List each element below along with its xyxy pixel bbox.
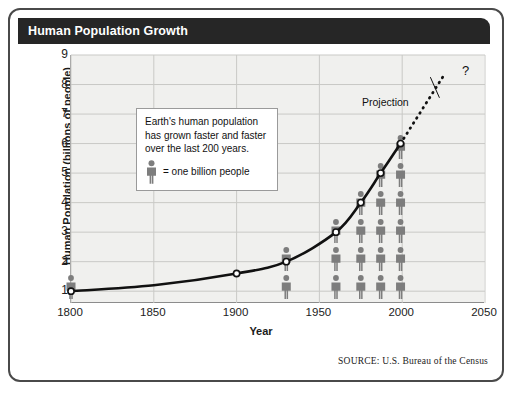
- data-point-marker: [68, 288, 74, 294]
- pictogram-person: [396, 247, 405, 271]
- y-tick-label: 7: [46, 106, 68, 120]
- pictogram-person: [376, 247, 385, 271]
- y-axis-ticks: 123456789: [44, 52, 68, 302]
- source-note: SOURCE: U.S. Bureau of the Census: [338, 356, 488, 366]
- pictogram-person: [376, 275, 385, 299]
- y-tick-label: 8: [46, 77, 68, 91]
- callout-legend-text: = one billion people: [163, 165, 249, 179]
- callout-line-2: has grown faster and faster: [145, 129, 269, 143]
- y-tick-label: 1: [46, 283, 68, 297]
- data-point-marker: [358, 200, 364, 206]
- x-tick-label: 1950: [306, 306, 332, 318]
- data-point-marker: [283, 259, 289, 265]
- chart-frame: Human Population Growth Human Population…: [8, 8, 504, 382]
- person-icon: [145, 160, 158, 184]
- y-tick-label: 3: [46, 224, 68, 238]
- pictogram-person: [331, 247, 340, 271]
- projection-leader-line: [430, 77, 439, 98]
- callout-line-1: Earth's human population: [145, 115, 269, 129]
- pictogram-person: [356, 275, 365, 299]
- pictogram-person: [396, 163, 405, 187]
- pictogram-person: [356, 219, 365, 243]
- callout-line-3: over the last 200 years.: [145, 142, 269, 156]
- pictogram-person: [376, 191, 385, 215]
- pictogram-person: [331, 275, 340, 299]
- data-point-marker: [234, 270, 240, 276]
- y-tick-label: 9: [46, 47, 68, 61]
- y-tick-label: 5: [46, 165, 68, 179]
- chart-canvas: [71, 55, 485, 303]
- pictogram-person: [396, 219, 405, 243]
- callout-box: Earth's human population has grown faste…: [136, 108, 278, 191]
- page-title: Human Population Growth: [18, 24, 188, 38]
- x-tick-label: 1900: [223, 306, 249, 318]
- pictogram-person: [356, 247, 365, 271]
- plot-container: Human Population (billions of people) Ye…: [30, 52, 492, 352]
- callout-legend-row: = one billion people: [145, 160, 269, 184]
- chart-title-bar: Human Population Growth: [18, 18, 490, 44]
- question-mark-annotation: ?: [462, 63, 469, 78]
- projection-label: Projection: [362, 96, 409, 108]
- y-tick-label: 4: [46, 195, 68, 209]
- pictogram-person: [376, 219, 385, 243]
- y-tick-label: 6: [46, 136, 68, 150]
- data-point-marker: [333, 229, 339, 235]
- x-tick-label: 1800: [57, 306, 83, 318]
- pictogram-person: [396, 275, 405, 299]
- pictogram-person: [396, 191, 405, 215]
- data-point-marker: [397, 140, 403, 146]
- x-tick-label: 1850: [140, 306, 166, 318]
- x-tick-label: 2050: [471, 306, 497, 318]
- y-tick-label: 2: [46, 254, 68, 268]
- series-line-projection: [401, 76, 444, 144]
- data-point-marker: [378, 170, 384, 176]
- x-axis-label: Year: [30, 325, 492, 337]
- x-tick-label: 2000: [388, 306, 414, 318]
- pictogram-person: [282, 275, 291, 299]
